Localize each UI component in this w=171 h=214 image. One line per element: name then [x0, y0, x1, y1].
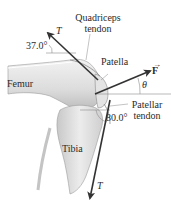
- angle-arc-upper: [49, 45, 52, 53]
- patellar-label-line2: tendon: [126, 110, 168, 121]
- knee-force-diagram: Quadriceps tendon T 37.0° Patella F → θ …: [0, 0, 171, 214]
- femur-label: Femur: [7, 78, 33, 89]
- angle-label-upper: 37.0°: [26, 40, 48, 51]
- force-label: F →: [152, 65, 158, 76]
- tension-label-upper: T: [56, 25, 62, 36]
- angle-label-lower: 80.0°: [106, 112, 128, 123]
- patellar-label-line1: Patellar: [126, 99, 168, 110]
- tibia-label: Tibia: [62, 143, 83, 154]
- patellar-tendon-label: Patellar tendon: [126, 99, 168, 121]
- angle-arc-theta: [138, 78, 140, 94]
- leader-patella: [101, 74, 108, 80]
- patella-label: Patella: [101, 56, 128, 67]
- quadriceps-label-line1: Quadriceps: [73, 12, 123, 23]
- tension-label-lower: T: [97, 180, 103, 191]
- theta-label: θ: [142, 79, 147, 90]
- leader-quadriceps: [86, 34, 90, 60]
- vector-arrow-icon: →: [153, 59, 161, 70]
- quadriceps-tendon-label: Quadriceps tendon: [73, 12, 123, 34]
- quadriceps-label-line2: tendon: [73, 23, 123, 34]
